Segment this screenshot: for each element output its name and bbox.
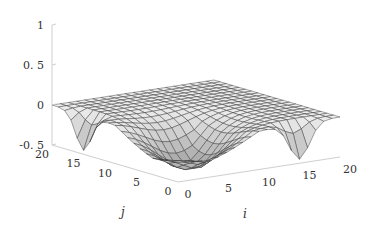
i-tick-label: 20 xyxy=(343,163,357,176)
i-tick-label: 0 xyxy=(185,188,192,201)
j-tick-label: 10 xyxy=(98,167,112,180)
j-tick-label: 15 xyxy=(67,157,81,170)
i-tick-label: 10 xyxy=(262,176,276,189)
z-tick-label: 0 xyxy=(37,99,44,112)
j-axis-label: j xyxy=(118,205,125,219)
i-tick-label: 15 xyxy=(303,169,317,182)
z-tick-label: 1 xyxy=(37,19,44,32)
j-tick-label: 5 xyxy=(133,176,140,189)
surface-mesh xyxy=(52,80,340,170)
j-tick-label: 0 xyxy=(165,185,172,198)
surface-plot: -0. 500. 510510152005101520ji xyxy=(0,0,376,226)
j-tick-label: 20 xyxy=(35,148,49,161)
z-tick-label: 0. 5 xyxy=(23,59,44,72)
i-tick-label: 5 xyxy=(225,182,232,195)
i-axis-label: i xyxy=(243,207,247,221)
